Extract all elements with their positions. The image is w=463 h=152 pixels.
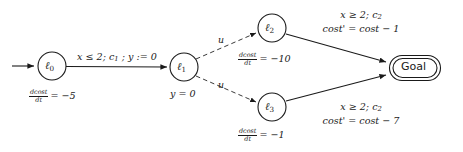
edge-l2-to-goal-update: cost' = cost − 1: [296, 24, 426, 34]
node-l1-label: ℓ1: [177, 61, 186, 73]
flow-fraction-l3: dcost dt: [238, 128, 257, 143]
node-l1-invariant: y = 0: [170, 89, 196, 99]
flow-numerator-l3: dcost: [238, 128, 257, 135]
edge-l1-to-l3-label: u: [218, 80, 224, 90]
flow-numerator-l2: dcost: [238, 52, 257, 59]
flow-denominator-l0: dt: [34, 97, 43, 104]
edge-l2-to-goal-guard-line: x ≥ 2; c2: [296, 10, 426, 22]
node-l3-label: ℓ3: [265, 101, 274, 113]
automaton-diagram: ℓ0 ℓ1 ℓ2 ℓ3 Goal dcost dt = −5 y = 0 dco…: [0, 0, 463, 152]
edge-l2-to-goal-event-subscript: 2: [378, 13, 382, 21]
node-l2-label: ℓ2: [265, 22, 274, 34]
node-goal-label: Goal: [401, 61, 426, 73]
flow-numerator-l0: dcost: [29, 89, 48, 96]
node-l0-flow-annotation: dcost dt = −5: [29, 89, 76, 104]
edge-l3-to-goal-label: x ≥ 2; c2 cost' = cost − 7: [296, 102, 426, 126]
node-l3-label-subscript: 3: [269, 105, 274, 114]
node-l0-label-subscript: 0: [49, 64, 54, 73]
edge-l2-to-goal: [286, 34, 386, 62]
node-l0-flow-value: = −5: [50, 91, 75, 101]
edge-l0-to-l1: [66, 67, 167, 68]
node-l2-flow-annotation: dcost dt = −10: [238, 52, 291, 67]
edge-l0-to-l1-guard: x ≤ 2: [77, 51, 103, 62]
node-l2-flow-value: = −10: [259, 54, 290, 64]
edge-l2-to-goal-label: x ≥ 2; c2 cost' = cost − 1: [296, 10, 426, 34]
node-l1-label-subscript: 1: [181, 65, 186, 74]
edge-l1-to-l3: [196, 76, 256, 102]
edge-l0-to-l1-label: x ≤ 2; c1 ; y := 0: [77, 52, 157, 64]
flow-denominator-l2: dt: [243, 60, 252, 67]
flow-denominator-l3: dt: [243, 136, 252, 143]
edge-l3-to-goal-update: cost' = cost − 7: [296, 116, 426, 126]
edge-l3-to-goal: [286, 75, 386, 101]
edge-l1-to-l2-label: u: [218, 35, 224, 45]
edge-l2-to-goal-guard: x ≥ 2: [340, 9, 366, 20]
edge-l3-to-goal-guard: x ≥ 2: [340, 101, 366, 112]
edge-l0-to-l1-separator-2: ;: [119, 51, 128, 62]
edge-l3-to-goal-event-subscript: 2: [378, 105, 382, 113]
edge-l3-to-goal-guard-line: x ≥ 2; c2: [296, 102, 426, 114]
edge-l0-to-l1-update: y := 0: [128, 51, 157, 62]
node-l3-flow-annotation: dcost dt = −1: [238, 128, 285, 143]
node-l3-flow-value: = −1: [259, 130, 284, 140]
node-l0-label: ℓ0: [45, 60, 54, 72]
flow-fraction-l2: dcost dt: [238, 52, 257, 67]
node-l2-label-subscript: 2: [269, 26, 274, 35]
flow-fraction-l0: dcost dt: [29, 89, 48, 104]
